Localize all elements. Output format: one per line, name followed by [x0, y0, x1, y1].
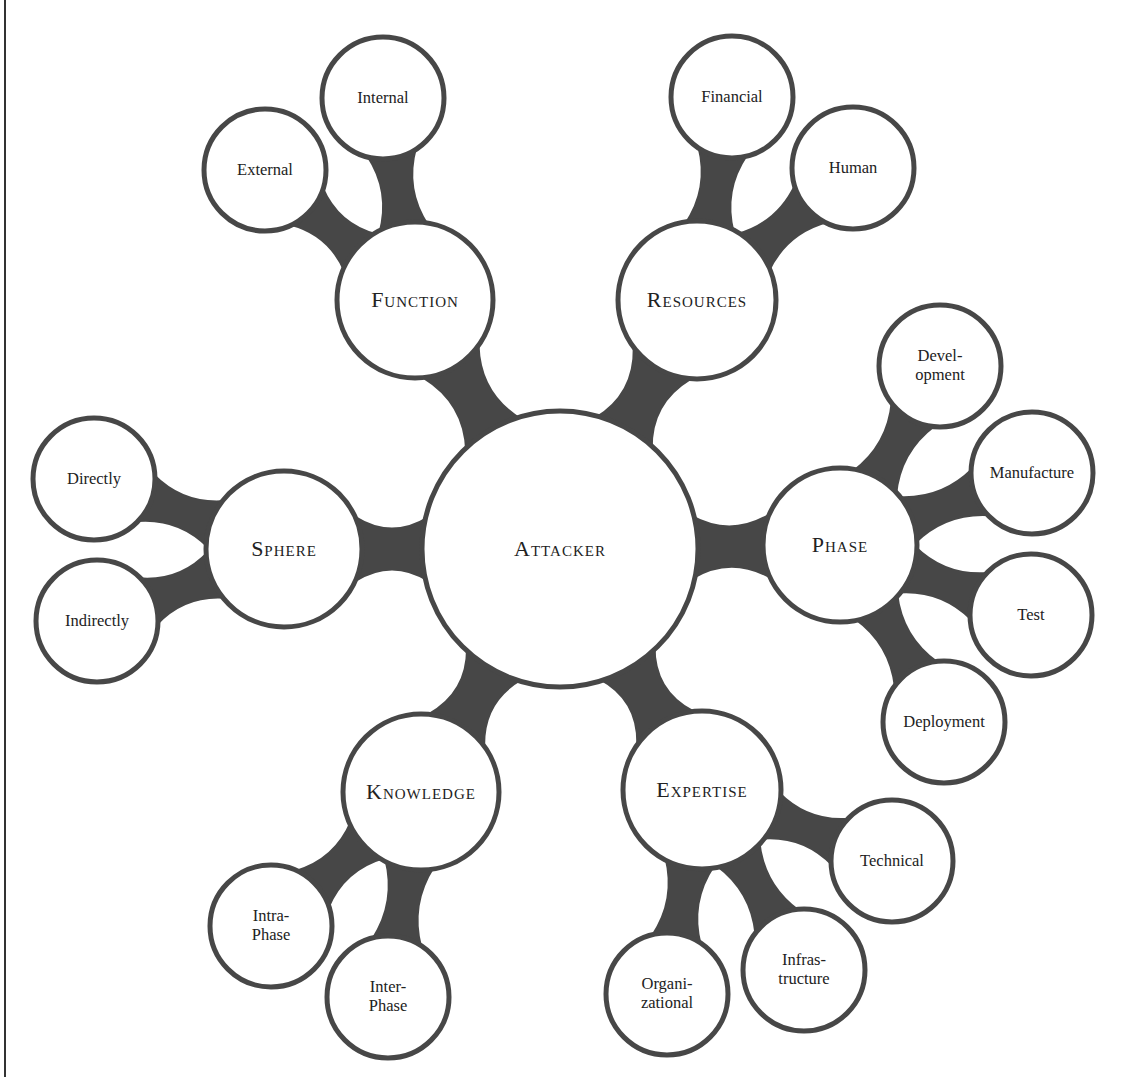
- node-circle-resources: [618, 221, 776, 379]
- node-circle-infrastructure: [743, 909, 865, 1031]
- node-circle-sphere: [206, 471, 362, 627]
- node-circle-human: [792, 107, 914, 229]
- node-circle-intra-phase: [210, 865, 332, 987]
- diagram-canvas: [0, 0, 1130, 1077]
- node-circle-function: [337, 222, 493, 378]
- node-circle-external: [204, 109, 326, 231]
- node-circle-phase: [763, 468, 917, 622]
- node-circle-test: [970, 554, 1092, 676]
- node-circle-development: [879, 305, 1001, 427]
- node-circle-internal: [322, 37, 444, 159]
- node-circle-attacker: [422, 411, 698, 687]
- node-circle-expertise: [623, 711, 781, 869]
- connector-attacker-sphere: [356, 516, 428, 582]
- node-circle-deployment: [883, 661, 1005, 783]
- node-circle-financial: [671, 36, 793, 158]
- connector-attacker-phase: [692, 514, 770, 580]
- node-circle-directly: [33, 418, 155, 540]
- node-circle-technical: [831, 800, 953, 922]
- node-circle-organizational: [606, 933, 728, 1055]
- node-circle-inter-phase: [327, 936, 449, 1058]
- node-circle-knowledge: [343, 714, 499, 870]
- attacker-mind-map: AttackerFunctionExternalInternalResource…: [0, 0, 1130, 1077]
- node-circle-manufacture: [971, 412, 1093, 534]
- node-circle-indirectly: [36, 560, 158, 682]
- node-circles: [33, 36, 1093, 1058]
